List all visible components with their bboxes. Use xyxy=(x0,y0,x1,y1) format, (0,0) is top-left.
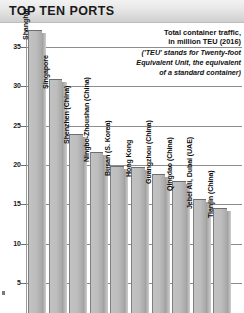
header-bar: TOP TEN PORTS xyxy=(0,0,244,23)
gridline-35 xyxy=(26,47,242,48)
y-tick-30 xyxy=(21,86,26,87)
y-axis-line xyxy=(26,36,27,313)
bar-shadow xyxy=(83,137,88,313)
plot-area: ShanghaiSingaporeShenzhen (China)Ningbo-… xyxy=(26,36,242,313)
bar-label: Ningbo-Zhoushan (China) xyxy=(83,78,91,163)
y-axis-label-35: 35 xyxy=(3,43,21,50)
bar-label: Singapore xyxy=(42,55,50,89)
bar[interactable] xyxy=(28,30,42,313)
y-tick-5 xyxy=(21,283,26,284)
y-axis-label-15: 15 xyxy=(3,200,21,207)
bar-label: Qingdao (China) xyxy=(166,137,174,191)
bar[interactable] xyxy=(193,199,207,313)
bar-shadow xyxy=(103,155,108,313)
bar[interactable] xyxy=(49,79,63,313)
y-axis-label-25: 25 xyxy=(3,122,21,129)
bar-label: Hong Kong xyxy=(125,139,133,176)
bar-label: Jebel Ali, Dubai (UAE) xyxy=(186,137,194,209)
bar-label: Shanghai xyxy=(22,9,30,40)
bar-label: Busan (S. Korea) xyxy=(104,120,112,176)
bar[interactable] xyxy=(131,167,145,313)
bar-shadow xyxy=(124,169,129,313)
bar[interactable] xyxy=(90,152,104,313)
y-axis-label-20: 20 xyxy=(3,161,21,168)
bar-shadow xyxy=(206,202,211,313)
bar-shadow xyxy=(227,211,232,313)
bar-shadow xyxy=(165,177,170,313)
y-axis-label-5: 5 xyxy=(3,279,21,286)
bar[interactable] xyxy=(152,174,166,313)
corner-mark-icon xyxy=(2,291,5,295)
bar[interactable] xyxy=(110,166,124,313)
bar[interactable] xyxy=(213,208,227,313)
y-tick-15 xyxy=(21,204,26,205)
y-tick-20 xyxy=(21,165,26,166)
y-tick-25 xyxy=(21,126,26,127)
bar-label: Tianjin (China) xyxy=(207,171,215,219)
bar-shadow xyxy=(145,170,150,313)
infographic-root: TOP TEN PORTS Total container traffic, i… xyxy=(0,0,244,313)
bar-label: Shenzhen (China) xyxy=(63,85,71,143)
y-tick-35 xyxy=(21,47,26,48)
bar[interactable] xyxy=(69,134,83,313)
bar-label: Guangzhou (China) xyxy=(145,120,153,184)
y-axis-label-10: 10 xyxy=(3,240,21,247)
y-tick-10 xyxy=(21,244,26,245)
y-axis-label-30: 30 xyxy=(3,82,21,89)
bar[interactable] xyxy=(172,181,186,313)
